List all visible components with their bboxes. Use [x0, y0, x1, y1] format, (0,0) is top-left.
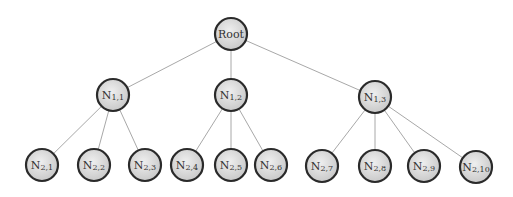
node-n2_5: N2,5 [215, 149, 247, 181]
node-n1_2: N1,2 [215, 79, 247, 111]
node-n2_1: N2,1 [26, 149, 58, 181]
node-n2_2: N2,2 [78, 149, 110, 181]
node-root: Root [215, 18, 247, 50]
node-n2_7: N2,7 [306, 150, 338, 182]
node-label: Root [218, 28, 245, 41]
node-n1_3: N1,3 [359, 81, 391, 113]
node-n1_1: N1,1 [97, 79, 129, 111]
edge-root-n1_1 [113, 34, 231, 95]
node-n2_6: N2,6 [255, 149, 287, 181]
node-n2_3: N2,3 [129, 149, 161, 181]
node-n2_8: N2,8 [359, 150, 391, 182]
tree-canvas: RootN1,1N1,2N1,3N2,1N2,2N2,3N2,4N2,5N2,6… [0, 0, 513, 197]
node-n2_9: N2,9 [408, 150, 440, 182]
tree-diagram: RootN1,1N1,2N1,3N2,1N2,2N2,3N2,4N2,5N2,6… [0, 0, 513, 197]
nodes: RootN1,1N1,2N1,3N2,1N2,2N2,3N2,4N2,5N2,6… [26, 18, 492, 183]
node-n2_10: N2,10 [460, 151, 492, 183]
edge-root-n1_3 [231, 34, 375, 97]
node-n2_4: N2,4 [171, 149, 203, 181]
